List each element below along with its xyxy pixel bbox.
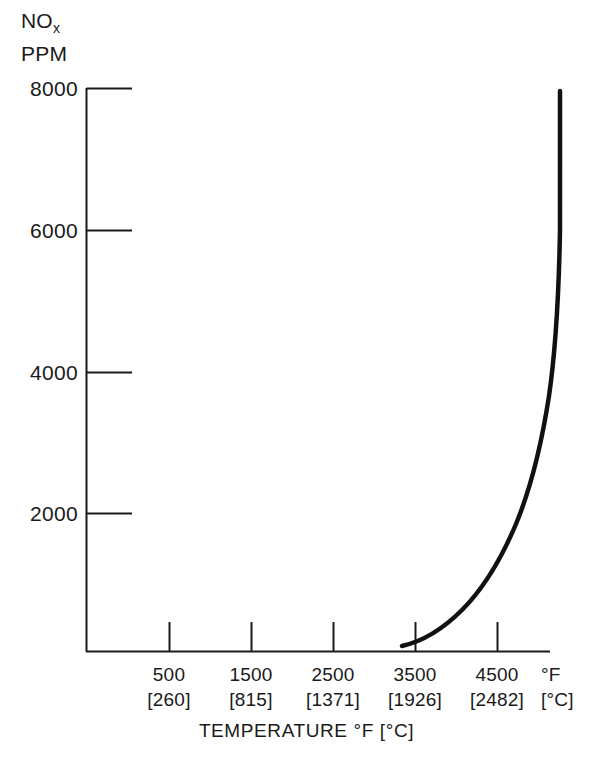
plot-area [0,0,613,760]
x-axis-unit-labels: °F [°C] [541,662,611,712]
x-tick-fahrenheit-3500: 3500 [370,662,460,687]
x-tick-celsius-500: [260] [124,687,214,712]
x-tick-label-2500: 2500 [1371] [288,662,378,712]
x-tick-celsius-4500: [2482] [452,687,542,712]
x-tick-celsius-3500: [1926] [370,687,460,712]
x-tick-celsius-2500: [1371] [288,687,378,712]
nox-curve [402,91,560,646]
x-axis-title: TEMPERATURE °F [°C] [0,720,613,742]
x-tick-celsius-1500: [815] [206,687,296,712]
x-axis-unit-fahrenheit: °F [541,662,611,687]
x-tick-fahrenheit-4500: 4500 [452,662,542,687]
x-tick-fahrenheit-2500: 2500 [288,662,378,687]
nox-temperature-chart: NOx PPM 8000 6000 4000 2000 500 [260] 15… [0,0,613,760]
x-tick-label-4500: 4500 [2482] [452,662,542,712]
x-tick-label-3500: 3500 [1926] [370,662,460,712]
x-tick-fahrenheit-1500: 1500 [206,662,296,687]
x-tick-label-500: 500 [260] [124,662,214,712]
x-axis-unit-celsius: [°C] [541,687,611,712]
x-tick-label-1500: 1500 [815] [206,662,296,712]
x-tick-fahrenheit-500: 500 [124,662,214,687]
